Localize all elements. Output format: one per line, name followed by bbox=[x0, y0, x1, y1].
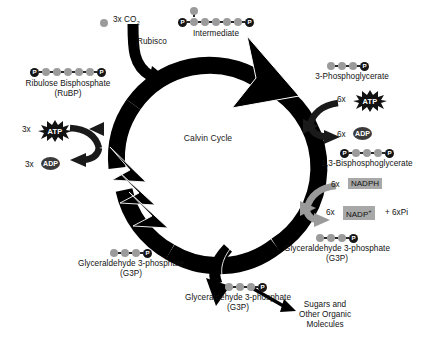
carbon-node bbox=[42, 68, 50, 76]
atp-left-icon: ATP bbox=[38, 120, 72, 142]
pga-molecule: P bbox=[327, 60, 369, 72]
phosphate-node: P bbox=[245, 18, 254, 27]
intermediate-molecule: P P bbox=[178, 16, 254, 28]
g3p-left-molecule: P bbox=[110, 247, 152, 259]
carbon-node bbox=[53, 68, 61, 76]
carbon-node bbox=[190, 18, 198, 26]
center-title: Calvin Cycle bbox=[184, 133, 232, 143]
carbon-node bbox=[110, 249, 118, 257]
phosphate-node: P bbox=[143, 249, 152, 258]
atp-right-count: 6x bbox=[337, 95, 346, 104]
adp-right-count: 6x bbox=[337, 130, 346, 139]
carbon-node bbox=[100, 19, 108, 27]
rubp-molecule: P P bbox=[30, 66, 106, 78]
rubisco-label: Rubisco bbox=[137, 37, 167, 47]
co2-label: 3x CO2 bbox=[113, 15, 140, 28]
adp-left-count: 3x bbox=[25, 160, 34, 169]
carbon-node bbox=[363, 149, 371, 157]
phosphate-node: P bbox=[97, 68, 106, 77]
carbon-node bbox=[338, 62, 346, 70]
carbon-node bbox=[201, 18, 209, 26]
adp-right-icon: ADP bbox=[353, 127, 372, 140]
carbon-node bbox=[212, 18, 220, 26]
g3p-right-molecule: P bbox=[316, 232, 358, 244]
pga-label: 3-Phosphoglycerate bbox=[315, 72, 389, 82]
carbon-node bbox=[374, 149, 382, 157]
g3p-exit-molecule: P bbox=[225, 281, 267, 293]
carbon-node bbox=[338, 234, 346, 242]
g3p-left-label: Glyceraldehyde 3-phosphate (G3P) bbox=[78, 259, 184, 279]
g3p-right-label: Glyceraldehyde 3-phosphate (G3P) bbox=[284, 244, 390, 264]
atp-right-label: ATP bbox=[363, 97, 378, 106]
atp-right-icon: ATP bbox=[353, 90, 387, 112]
carbon-node bbox=[132, 249, 140, 257]
carbon-node bbox=[349, 62, 357, 70]
rubp-label: Ribulose Bisphosphate (RuBP) bbox=[26, 79, 111, 99]
atp-left-count: 3x bbox=[22, 125, 31, 134]
nadp-count: 6x bbox=[326, 208, 335, 217]
rubisco-inlet-arrow bbox=[133, 24, 172, 92]
carbon-node bbox=[86, 68, 94, 76]
phosphate-node: P bbox=[258, 283, 267, 292]
calvin-cycle-diagram: 3x CO2 Rubisco P P Intermediate P bbox=[0, 0, 439, 347]
branch-carbon-node bbox=[190, 7, 198, 15]
carbon-node bbox=[75, 68, 83, 76]
phosphate-node: P bbox=[360, 62, 369, 71]
bpg-label: 1,3-Bisphosphoglycerate bbox=[321, 159, 412, 169]
sugars-output-label: Sugars and Other Organic Molecules bbox=[299, 300, 351, 330]
adp-left-icon: ADP bbox=[41, 157, 60, 170]
nadph-count: 6x bbox=[331, 180, 340, 189]
bpg-molecule: P P bbox=[340, 147, 394, 159]
phosphate-node: P bbox=[178, 18, 187, 27]
carbon-node bbox=[225, 283, 233, 291]
atp-left-label: ATP bbox=[48, 127, 63, 136]
carbon-node bbox=[352, 149, 360, 157]
carbon-node bbox=[234, 18, 242, 26]
nadph-box: NADPH bbox=[348, 178, 382, 189]
nadp-box: NADP+ bbox=[343, 206, 375, 220]
carbon-node bbox=[327, 62, 335, 70]
phosphate-node: P bbox=[30, 68, 39, 77]
phosphate-node: P bbox=[385, 149, 394, 158]
carbon-node bbox=[121, 249, 129, 257]
carbon-node bbox=[236, 283, 244, 291]
atp-to-adp-arrow-left bbox=[70, 122, 104, 167]
intermediate-label: Intermediate bbox=[193, 29, 239, 39]
phosphate-node: P bbox=[340, 149, 349, 158]
g3p-exit-label: Glyceraldehyde 3-phosphate (G3P) bbox=[185, 293, 291, 313]
carbon-node bbox=[223, 18, 231, 26]
pi-label: + 6xPi bbox=[385, 208, 408, 217]
co2-molecule bbox=[100, 17, 108, 29]
carbon-node bbox=[247, 283, 255, 291]
carbon-node bbox=[327, 234, 335, 242]
carbon-node bbox=[64, 68, 72, 76]
carbon-node bbox=[316, 234, 324, 242]
phosphate-node: P bbox=[349, 234, 358, 243]
